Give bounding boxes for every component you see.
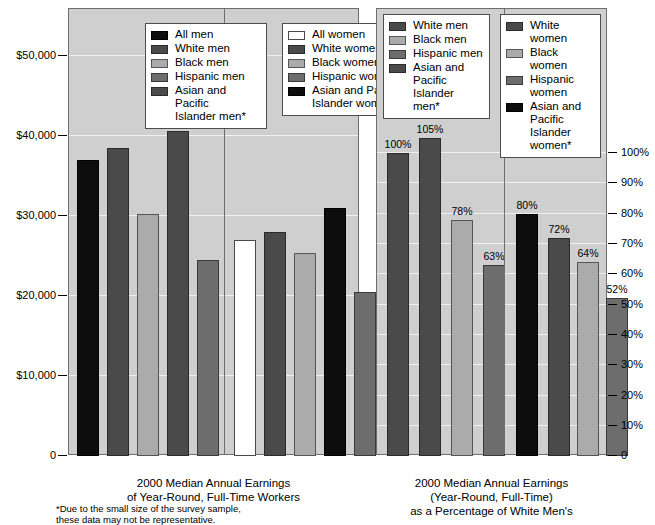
legend-label: Hispanic women — [530, 73, 594, 99]
y-tick-label: $40,000 — [16, 130, 56, 141]
bar — [387, 153, 409, 456]
y-tick-mark — [58, 55, 67, 56]
y-tick-mark — [608, 273, 617, 274]
legend-swatch-icon — [288, 45, 305, 54]
right-chart-caption: 2000 Median Annual Earnings (Year-Round,… — [368, 476, 615, 518]
legend-label: Black women — [530, 46, 594, 72]
legend-label: All women — [312, 28, 365, 41]
y-tick-mark — [58, 135, 67, 136]
y-tick-label: $10,000 — [16, 370, 56, 381]
bar — [234, 240, 256, 456]
y-tick-mark — [608, 455, 617, 456]
y-tick-label: 20% — [621, 390, 643, 401]
y-tick-label: 0 — [50, 450, 56, 461]
bar — [77, 160, 99, 456]
legend-swatch-icon — [506, 49, 523, 58]
legend-label: White men — [175, 42, 230, 55]
legend-swatch-icon — [151, 87, 168, 96]
legend-swatch-icon — [288, 73, 305, 82]
y-tick-mark — [608, 213, 617, 214]
y-tick-label: 60% — [621, 268, 643, 279]
y-tick-label: 30% — [621, 359, 643, 370]
legend-label: Hispanic men — [413, 47, 483, 60]
gridline — [377, 243, 606, 244]
gridline — [377, 182, 606, 183]
earnings-dollars-plot-area: All menWhite menBlack menHispanic menAsi… — [68, 8, 359, 455]
bar — [294, 253, 316, 456]
legend-swatch-icon — [506, 76, 523, 85]
legend-label: Asian and Pacific Islander men* — [175, 84, 260, 123]
bar — [451, 220, 473, 456]
gridline — [69, 135, 358, 136]
bar — [516, 214, 538, 456]
bar-value-label: 100% — [380, 139, 416, 150]
bar — [548, 238, 570, 456]
y-tick-mark — [58, 215, 67, 216]
legend-item: Hispanic men — [151, 70, 260, 83]
bar — [577, 262, 599, 456]
y-tick-label: 70% — [621, 238, 643, 249]
y-tick-label: 50% — [621, 299, 643, 310]
legend-swatch-icon — [389, 50, 406, 59]
legend-label: Black men — [175, 56, 229, 69]
y-tick-mark — [608, 182, 617, 183]
legend-item: Asian and Pacific Islander men* — [151, 84, 260, 123]
legend-item: Black men — [389, 33, 483, 46]
legend-item: Asian and Pacific Islander men* — [389, 61, 483, 113]
legend-item: White men — [151, 42, 260, 55]
y-tick-label: 90% — [621, 177, 643, 188]
y-tick-mark — [58, 375, 67, 376]
legend-item: Hispanic men — [389, 47, 483, 60]
legend-women-percent: White womenBlack womenHispanic womenAsia… — [500, 14, 601, 158]
bar — [354, 292, 376, 456]
left-y-axis: $50,000$40,000$30,000$20,000$10,0000 — [0, 0, 68, 521]
legend-label: Hispanic men — [175, 70, 245, 83]
y-tick-label: $50,000 — [16, 50, 56, 61]
y-tick-mark — [58, 295, 67, 296]
y-tick-label: 40% — [621, 329, 643, 340]
right-y-axis: 100%90%80%70%60%50%40%30%20%10%0 — [607, 0, 655, 521]
legend-label: Black men — [413, 33, 467, 46]
legend-label: Asian and Pacific Islander men* — [413, 61, 483, 113]
y-tick-mark — [608, 334, 617, 335]
legend-swatch-icon — [506, 22, 523, 31]
bar-value-label: 80% — [509, 200, 545, 211]
bar-value-label: 72% — [541, 224, 577, 235]
gridline — [377, 213, 606, 214]
legend-label: All men — [175, 28, 213, 41]
legend-swatch-icon — [389, 64, 406, 73]
y-tick-mark — [608, 425, 617, 426]
y-tick-mark — [608, 243, 617, 244]
legend-men-dollars: All menWhite menBlack menHispanic menAsi… — [145, 23, 267, 129]
y-tick-label: 0 — [621, 450, 627, 461]
y-tick-mark — [608, 395, 617, 396]
y-tick-mark — [608, 364, 617, 365]
legend-item: Hispanic women — [506, 73, 594, 99]
footnote: *Due to the small size of the survey sam… — [56, 503, 386, 525]
y-tick-mark — [608, 152, 617, 153]
bar-value-label: 64% — [570, 248, 606, 259]
bar — [264, 232, 286, 456]
legend-swatch-icon — [389, 36, 406, 45]
y-tick-label: $30,000 — [16, 210, 56, 221]
legend-item: White men — [389, 19, 483, 32]
bar — [167, 131, 189, 456]
bar — [137, 214, 159, 456]
legend-swatch-icon — [151, 45, 168, 54]
bar — [324, 208, 346, 456]
legend-swatch-icon — [151, 59, 168, 68]
legend-swatch-icon — [288, 87, 305, 96]
legend-item: All men — [151, 28, 260, 41]
y-tick-label: 10% — [621, 420, 643, 431]
bar-value-label: 105% — [412, 124, 448, 135]
legend-label: White women — [312, 42, 382, 55]
legend-swatch-icon — [151, 31, 168, 40]
legend-swatch-icon — [389, 22, 406, 31]
legend-item: Asian and Pacific Islander women* — [506, 100, 594, 152]
legend-label: Asian and Pacific Islander women* — [530, 100, 594, 152]
y-tick-mark — [608, 304, 617, 305]
legend-item: Black men — [151, 56, 260, 69]
left-chart-caption: 2000 Median Annual Earnings of Year-Roun… — [68, 476, 359, 504]
legend-item: White women — [506, 19, 594, 45]
